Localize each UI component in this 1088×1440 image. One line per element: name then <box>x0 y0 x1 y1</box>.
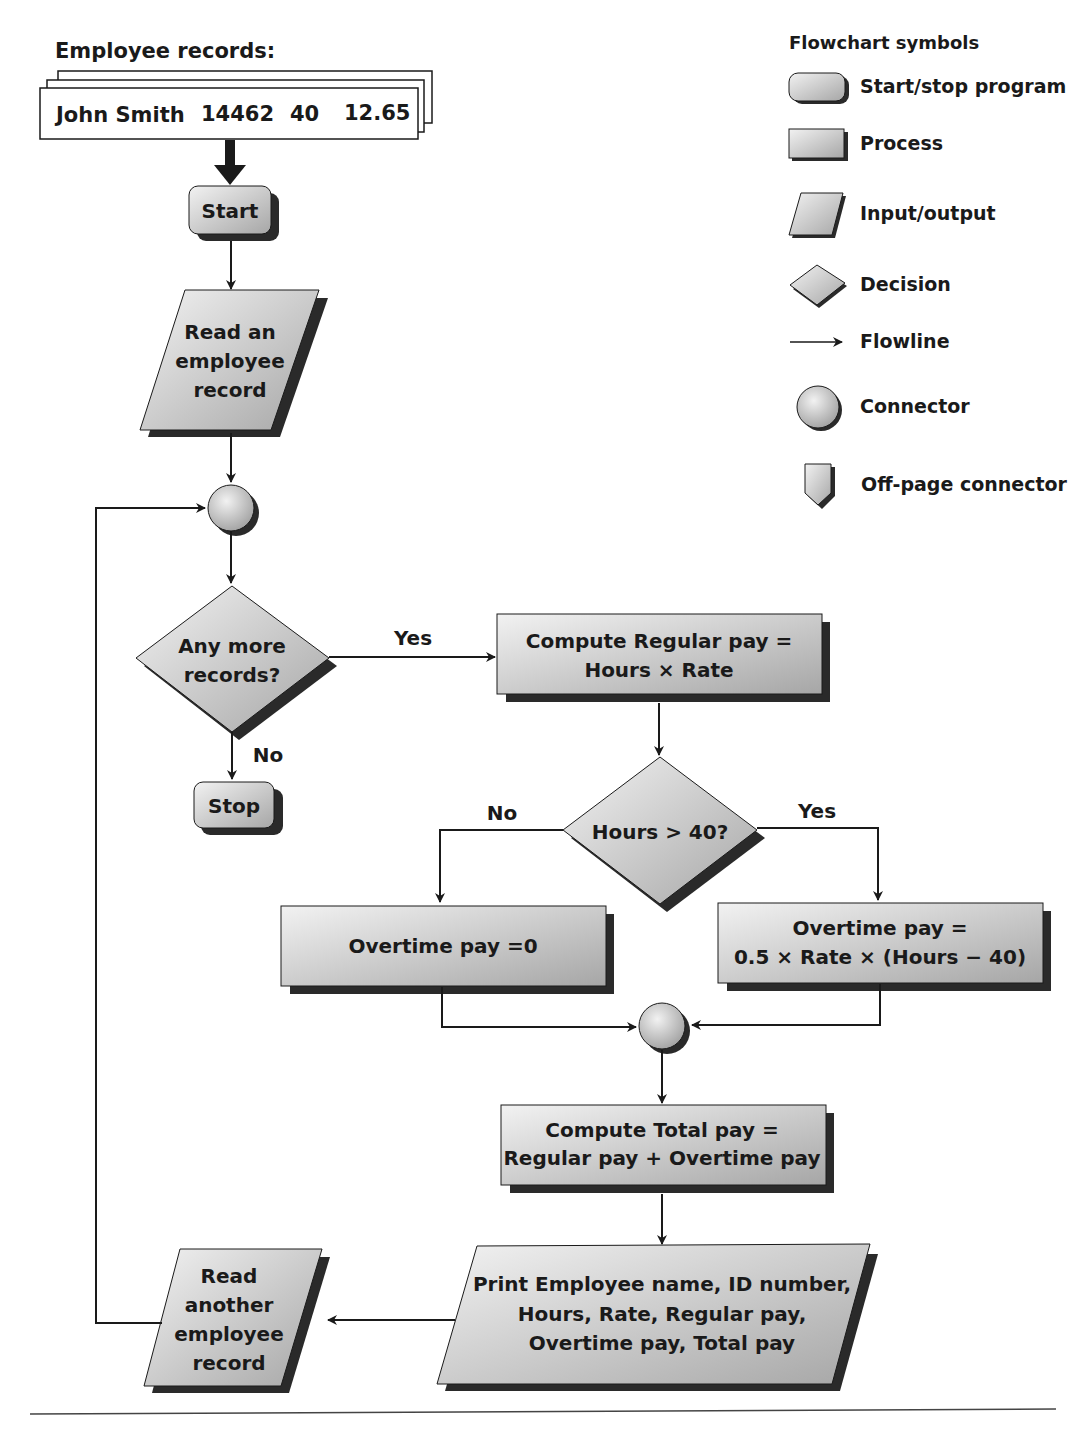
flowline-no-overtime <box>440 830 563 902</box>
record-field-hours: 40 <box>290 102 319 126</box>
record-field-name: John Smith <box>54 103 185 127</box>
stop-label: Stop <box>208 794 260 818</box>
thick-arrow-head <box>214 165 246 185</box>
print-line-2: Hours, Rate, Regular pay, <box>518 1302 807 1326</box>
node-regular-pay: Compute Regular pay = Hours × Rate <box>497 614 830 702</box>
overtime-zero-label: Overtime pay =0 <box>348 934 537 958</box>
print-line-3: Overtime pay, Total pay <box>529 1331 795 1355</box>
node-overtime-zero: Overtime pay =0 <box>281 906 614 994</box>
node-stop: Stop <box>194 782 283 835</box>
legend-flowline-label: Flowline <box>860 330 950 352</box>
read-another-line-3: employee <box>174 1322 283 1346</box>
node-hours-check: Hours > 40? <box>563 757 765 912</box>
node-any-more-records: Any more records? <box>136 586 337 740</box>
start-label: Start <box>202 199 259 223</box>
node-read-another: Read another employee record <box>144 1249 330 1393</box>
read-another-line-1: Read <box>201 1264 258 1288</box>
node-read-first: Read an employee record <box>140 290 328 437</box>
overtime-calc-line-2: 0.5 × Rate × (Hours − 40) <box>734 945 1026 969</box>
read-another-line-4: record <box>192 1351 265 1375</box>
node-connector-mid <box>639 1003 690 1054</box>
read-another-line-2: another <box>185 1293 274 1317</box>
legend-title: Flowchart symbols <box>789 32 979 53</box>
flowline-yes-overtime <box>757 828 878 900</box>
any-more-line-1: Any more <box>178 634 286 658</box>
read-first-line-3: record <box>193 378 266 402</box>
legend: Flowchart symbols Start/stop program Pro… <box>789 32 1068 509</box>
regular-pay-line-2: Hours × Rate <box>584 658 733 682</box>
legend-connector-label: Connector <box>860 395 970 417</box>
regular-pay-line-1: Compute Regular pay = <box>526 629 793 653</box>
records-title: Employee records: <box>55 39 275 63</box>
legend-terminal-label: Start/stop program <box>860 75 1066 97</box>
node-start: Start <box>189 186 279 241</box>
legend-process-icon <box>789 129 844 158</box>
record-field-id: 14462 <box>201 102 274 126</box>
employee-records: Employee records: John Smith 14462 40 12… <box>40 39 432 185</box>
legend-io-label: Input/output <box>860 202 996 224</box>
edge-label-hours-no: No <box>487 801 517 825</box>
thick-arrow-shaft <box>225 140 235 167</box>
print-line-1: Print Employee name, ID number, <box>473 1272 851 1296</box>
read-first-line-2: employee <box>175 349 284 373</box>
legend-decision-icon <box>790 265 845 305</box>
read-first-line-1: Read an <box>184 320 275 344</box>
hours-check-label: Hours > 40? <box>592 820 729 844</box>
record-field-rate: 12.65 <box>344 101 410 125</box>
edge-label-no: No <box>253 743 283 767</box>
node-total-pay: Compute Total pay = Regular pay + Overti… <box>501 1105 834 1193</box>
legend-offpage-label: Off-page connector <box>861 473 1068 495</box>
node-connector-top <box>208 485 259 536</box>
flowchart-canvas: Employee records: John Smith 14462 40 12… <box>0 0 1088 1440</box>
bottom-rule <box>30 1409 1056 1414</box>
legend-terminal-icon <box>789 73 845 101</box>
node-overtime-calc: Overtime pay = 0.5 × Rate × (Hours − 40) <box>718 903 1051 991</box>
any-more-line-2: records? <box>184 663 281 687</box>
node-print: Print Employee name, ID number, Hours, R… <box>437 1244 878 1391</box>
legend-connector-icon <box>797 386 839 428</box>
edge-label-hours-yes: Yes <box>797 799 836 823</box>
legend-process-label: Process <box>860 132 943 154</box>
total-pay-line-1: Compute Total pay = <box>545 1118 778 1142</box>
edge-label-yes: Yes <box>393 626 432 650</box>
total-pay-line-2: Regular pay + Overtime pay <box>503 1146 820 1170</box>
legend-decision-label: Decision <box>860 273 951 295</box>
overtime-calc-line-1: Overtime pay = <box>792 916 967 940</box>
